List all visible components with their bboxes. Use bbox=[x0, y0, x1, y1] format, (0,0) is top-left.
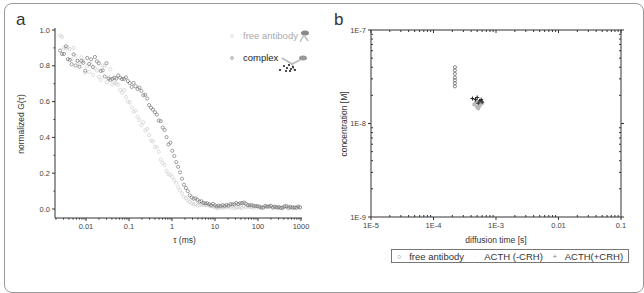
plot-frame-b bbox=[371, 30, 621, 217]
data-point bbox=[95, 69, 98, 72]
data-point bbox=[182, 183, 185, 186]
y-tick-label: 0.6 bbox=[40, 97, 50, 106]
x-tick-label: 1E-5 bbox=[363, 221, 379, 230]
x-tick-label: 0.1 bbox=[124, 222, 134, 231]
x-tick-label: 1E-4 bbox=[426, 221, 442, 230]
data-point bbox=[190, 202, 193, 205]
data-point bbox=[122, 88, 125, 91]
data-point bbox=[128, 101, 131, 104]
data-point bbox=[178, 171, 181, 174]
data-point bbox=[250, 203, 253, 206]
data-point bbox=[180, 177, 183, 180]
dot-icon: · bbox=[474, 253, 476, 260]
data-point bbox=[138, 118, 141, 121]
data-point bbox=[159, 158, 162, 161]
data-point bbox=[130, 85, 133, 88]
data-point bbox=[140, 124, 143, 127]
data-point bbox=[120, 91, 123, 94]
data-point bbox=[186, 190, 189, 193]
data-point bbox=[171, 149, 174, 152]
data-point bbox=[59, 49, 62, 52]
data-point bbox=[149, 139, 152, 142]
data-point bbox=[86, 56, 89, 59]
data-point bbox=[151, 140, 154, 143]
data-point bbox=[240, 202, 243, 205]
x-axis-title-b: diffusion time [s] bbox=[465, 235, 526, 245]
data-point bbox=[97, 75, 100, 78]
legend-label: ACTH(+CRH) bbox=[565, 251, 623, 262]
data-point bbox=[109, 68, 112, 71]
x-tick-label: 0.1 bbox=[616, 221, 626, 230]
data-point bbox=[159, 120, 162, 123]
data-point bbox=[178, 189, 181, 192]
open-circle-icon bbox=[231, 35, 234, 38]
data-point bbox=[167, 143, 170, 146]
legend-item-free-antibody: ○ free antibody bbox=[397, 251, 464, 262]
legend-label: ACTH (-CRH) bbox=[484, 251, 543, 262]
x-tick-label: 100 bbox=[252, 222, 265, 231]
open-circle-icon bbox=[231, 57, 234, 60]
data-point bbox=[171, 175, 174, 178]
data-point bbox=[149, 106, 152, 109]
data-point bbox=[169, 141, 172, 144]
data-point bbox=[177, 186, 180, 189]
legend-item-acth-plus-crh: + ACTH(+CRH) bbox=[553, 251, 623, 262]
data-point bbox=[118, 88, 121, 91]
data-point bbox=[72, 46, 75, 49]
data-point bbox=[80, 56, 83, 59]
data-point bbox=[453, 66, 456, 69]
data-point bbox=[101, 69, 104, 72]
data-point bbox=[95, 60, 98, 63]
data-point bbox=[62, 52, 65, 55]
legend-panel-b: ○ free antibody · ACTH (-CRH) + ACTH(+CR… bbox=[391, 249, 629, 263]
data-point bbox=[115, 77, 118, 80]
data-point bbox=[169, 173, 172, 176]
data-point bbox=[89, 58, 92, 61]
data-point bbox=[155, 113, 158, 116]
data-point bbox=[146, 97, 149, 100]
data-point bbox=[70, 63, 73, 66]
data-point bbox=[233, 207, 236, 210]
data-point bbox=[88, 70, 91, 73]
plus-icon: + bbox=[553, 253, 557, 260]
x-tick-label: 1E-3 bbox=[488, 221, 504, 230]
data-point bbox=[130, 106, 133, 109]
data-point bbox=[124, 95, 127, 98]
data-point bbox=[99, 79, 102, 82]
x-tick-label: 1 bbox=[170, 222, 174, 231]
data-point bbox=[128, 82, 131, 85]
data-point bbox=[103, 75, 106, 78]
data-point bbox=[111, 83, 114, 86]
series-free-antibody bbox=[453, 66, 456, 88]
data-point bbox=[88, 62, 91, 65]
data-point bbox=[453, 69, 456, 72]
chart-a: 0.00.20.40.60.81.00.010.11101001000τ (ms… bbox=[16, 26, 309, 246]
data-point bbox=[105, 62, 108, 65]
antibody-icon bbox=[300, 31, 309, 43]
data-point bbox=[175, 181, 178, 184]
data-point bbox=[184, 186, 187, 189]
y-tick-label: 0.0 bbox=[40, 205, 50, 214]
x-tick-label: 1000 bbox=[293, 222, 310, 231]
data-point bbox=[453, 72, 456, 75]
y-tick-label: 0.4 bbox=[40, 133, 50, 142]
x-tick-label: 0.01 bbox=[551, 221, 566, 230]
y-tick-label: 0.8 bbox=[40, 61, 50, 70]
data-point bbox=[175, 161, 178, 164]
data-point bbox=[105, 81, 108, 84]
data-point bbox=[140, 89, 143, 92]
y-axis-title-b: concentration [M] bbox=[339, 91, 349, 156]
data-point bbox=[84, 69, 87, 72]
data-point bbox=[177, 165, 180, 168]
legend-label-complex: complex bbox=[243, 52, 279, 63]
data-point bbox=[453, 85, 456, 88]
x-tick-label: 0.01 bbox=[79, 222, 94, 231]
antibody-complex-icon bbox=[279, 56, 307, 73]
data-point bbox=[476, 107, 480, 111]
legend-item-acth-minus-crh: · ACTH (-CRH) bbox=[474, 251, 543, 262]
chart-b: 1E-91E-81E-71E-51E-41E-30.010.1diffusion… bbox=[339, 26, 626, 246]
data-point bbox=[192, 203, 195, 206]
legend-label-free-antibody: free antibody bbox=[243, 30, 298, 41]
x-axis-title-a: τ (ms) bbox=[173, 235, 196, 245]
